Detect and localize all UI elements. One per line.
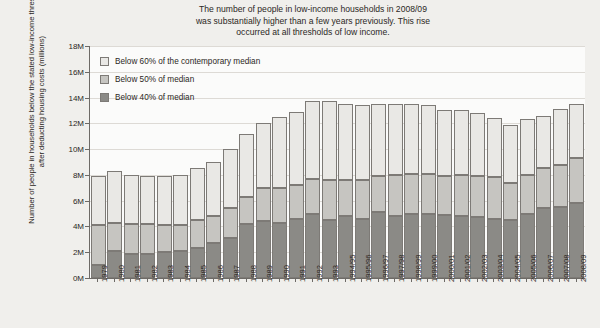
bar-segment[interactable] xyxy=(404,174,419,214)
bar-segment[interactable] xyxy=(487,177,502,218)
bar-segment[interactable] xyxy=(173,225,188,251)
x-tick-label: 1995/96 xyxy=(364,255,373,282)
bar-column[interactable] xyxy=(289,46,304,278)
bar-segment[interactable] xyxy=(355,105,370,180)
bar-segment[interactable] xyxy=(107,171,122,223)
x-tick-mark xyxy=(130,279,131,282)
bar-segment[interactable] xyxy=(322,180,337,220)
bar-segment[interactable] xyxy=(338,104,353,180)
bar-segment[interactable] xyxy=(305,179,320,214)
bar-segment[interactable] xyxy=(553,109,568,164)
bar-segment[interactable] xyxy=(569,158,584,203)
x-tick-mark xyxy=(559,279,560,282)
bar-segment[interactable] xyxy=(91,225,106,265)
bar-column[interactable] xyxy=(338,46,353,278)
bar-segment[interactable] xyxy=(454,110,469,174)
bar-segment[interactable] xyxy=(388,175,403,216)
bar-column[interactable] xyxy=(520,46,535,278)
x-tick-label: 2007/08 xyxy=(562,255,571,282)
bar-segment[interactable] xyxy=(355,180,370,219)
bar-segment[interactable] xyxy=(569,104,584,158)
bar-column[interactable] xyxy=(272,46,287,278)
bar-segment[interactable] xyxy=(206,216,221,243)
x-tick-label: 2002/03 xyxy=(480,255,489,282)
x-tick-mark xyxy=(411,279,412,282)
bar-segment[interactable] xyxy=(388,104,403,175)
bar-segment[interactable] xyxy=(124,175,139,224)
bar-segment[interactable] xyxy=(371,104,386,176)
x-tick-mark xyxy=(180,279,181,282)
bar-column[interactable] xyxy=(305,46,320,278)
x-tick-label: 2003/04 xyxy=(496,255,505,282)
bar-segment[interactable] xyxy=(503,183,518,220)
bar-segment[interactable] xyxy=(140,224,155,254)
bar-segment[interactable] xyxy=(124,224,139,254)
x-tick-mark xyxy=(328,279,329,282)
bar-segment[interactable] xyxy=(190,220,205,248)
legend-item[interactable]: Below 50% of median xyxy=(100,72,260,87)
bar-segment[interactable] xyxy=(107,223,122,251)
bar-segment[interactable] xyxy=(437,110,452,176)
bar-segment[interactable] xyxy=(272,117,287,188)
bar-column[interactable] xyxy=(503,46,518,278)
bar-segment[interactable] xyxy=(553,165,568,208)
bar-segment[interactable] xyxy=(223,149,238,208)
bar-segment[interactable] xyxy=(239,197,254,224)
bar-segment[interactable] xyxy=(536,168,551,208)
bar-segment[interactable] xyxy=(421,174,436,214)
bar-segment[interactable] xyxy=(421,105,436,173)
x-tick-label: 1993 xyxy=(331,265,340,282)
bar-column[interactable] xyxy=(421,46,436,278)
bar-segment[interactable] xyxy=(91,176,106,225)
bar-column[interactable] xyxy=(569,46,584,278)
bar-segment[interactable] xyxy=(536,116,551,169)
x-tick-label: 1990 xyxy=(282,265,291,282)
bar-column[interactable] xyxy=(355,46,370,278)
bar-segment[interactable] xyxy=(223,208,238,238)
bar-column[interactable] xyxy=(487,46,502,278)
bar-column[interactable] xyxy=(371,46,386,278)
bar-column[interactable] xyxy=(404,46,419,278)
bar-segment[interactable] xyxy=(289,185,304,219)
bar-segment[interactable] xyxy=(454,175,469,216)
bar-segment[interactable] xyxy=(305,101,320,178)
bar-column[interactable] xyxy=(470,46,485,278)
bar-segment[interactable] xyxy=(371,176,386,212)
x-tick-label: 1985 xyxy=(199,265,208,282)
bar-segment[interactable] xyxy=(470,176,485,217)
bar-segment[interactable] xyxy=(140,176,155,224)
bar-segment[interactable] xyxy=(256,188,271,222)
bar-segment[interactable] xyxy=(206,162,221,216)
legend-item[interactable]: Below 40% of median xyxy=(100,90,260,105)
x-tick-label: 1997/98 xyxy=(397,255,406,282)
bar-segment[interactable] xyxy=(239,134,254,197)
x-tick-mark xyxy=(394,279,395,282)
bar-segment[interactable] xyxy=(437,176,452,215)
x-tick-mark xyxy=(510,279,511,282)
x-tick-mark xyxy=(262,279,263,282)
bar-segment[interactable] xyxy=(256,123,271,187)
bar-column[interactable] xyxy=(437,46,452,278)
y-tick-label: 16M xyxy=(5,67,89,76)
bar-segment[interactable] xyxy=(289,112,304,185)
bar-column[interactable] xyxy=(388,46,403,278)
x-tick-mark xyxy=(229,279,230,282)
bar-column[interactable] xyxy=(322,46,337,278)
bar-segment[interactable] xyxy=(503,125,518,183)
bar-segment[interactable] xyxy=(520,119,535,174)
bar-segment[interactable] xyxy=(272,188,287,223)
bar-segment[interactable] xyxy=(322,101,337,180)
bar-column[interactable] xyxy=(553,46,568,278)
bar-segment[interactable] xyxy=(470,113,485,176)
bar-segment[interactable] xyxy=(520,175,535,214)
legend-item[interactable]: Below 60% of the contemporary median xyxy=(100,54,260,69)
bar-segment[interactable] xyxy=(173,175,188,225)
bar-column[interactable] xyxy=(454,46,469,278)
bar-segment[interactable] xyxy=(487,118,502,177)
bar-segment[interactable] xyxy=(404,104,419,174)
bar-segment[interactable] xyxy=(338,180,353,216)
bar-segment[interactable] xyxy=(190,168,205,220)
bar-column[interactable] xyxy=(536,46,551,278)
bar-segment[interactable] xyxy=(157,225,172,252)
bar-segment[interactable] xyxy=(157,176,172,225)
